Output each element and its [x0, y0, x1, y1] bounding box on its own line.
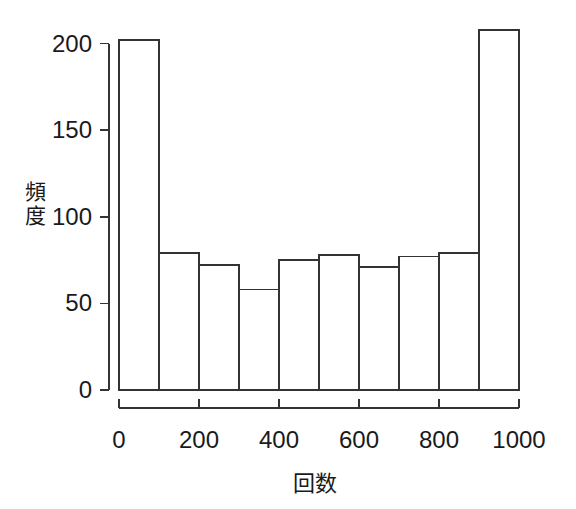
- histogram-bar: [359, 267, 399, 390]
- xtick-label-800: 800: [419, 428, 459, 452]
- xtick-label-600: 600: [339, 428, 379, 452]
- ytick-label-50: 50: [40, 291, 92, 315]
- histogram-bar: [479, 30, 519, 390]
- xtick-label-0: 0: [112, 428, 125, 452]
- histogram-bar: [119, 40, 159, 390]
- y-axis-label-char-1: 頻: [20, 181, 50, 205]
- y-axis: [100, 44, 109, 390]
- ytick-label-0: 0: [40, 378, 92, 402]
- histogram-bar: [159, 253, 199, 390]
- histogram-bar: [199, 265, 239, 390]
- histogram-figure: 200 150 100 50 0 0 200 400 600 800 1000 …: [0, 0, 576, 509]
- x-axis-label: 回数: [293, 465, 337, 497]
- y-axis-label: 頻 度: [20, 181, 50, 228]
- xtick-label-200: 200: [179, 428, 219, 452]
- x-axis: [119, 399, 519, 408]
- xtick-label-400: 400: [259, 428, 299, 452]
- histogram-bar: [439, 253, 479, 390]
- y-axis-label-char-2: 度: [20, 205, 50, 229]
- histogram-bar: [319, 255, 359, 390]
- histogram-bar: [399, 257, 439, 390]
- ytick-label-200: 200: [40, 32, 92, 56]
- histogram-bar: [279, 260, 319, 390]
- histogram-bar: [239, 290, 279, 390]
- ytick-label-150: 150: [40, 118, 92, 142]
- xtick-label-1000: 1000: [492, 428, 545, 452]
- bars-group: [119, 30, 519, 390]
